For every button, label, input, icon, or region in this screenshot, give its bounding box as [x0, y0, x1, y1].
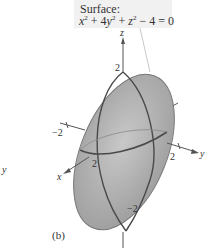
y-axis-label: y: [199, 148, 205, 159]
z-bottom-tick-label: −2: [127, 203, 138, 214]
ellipsoid-plot: z −2 y 2 x 2 2 −2: [0, 0, 209, 248]
z-axis-arrow-icon: [121, 37, 125, 44]
caption-leader-line: [140, 28, 150, 72]
z-top-tick-label: 2: [115, 62, 120, 73]
x-axis-label: x: [56, 171, 62, 182]
y-pos-tick-label: 2: [170, 151, 175, 162]
adjacent-figure-y-label: y: [2, 164, 6, 175]
z-axis-label: z: [119, 27, 124, 38]
x-pos-tick-label: 2: [92, 158, 97, 169]
subfigure-label: (b): [52, 229, 65, 241]
y-axis-negative: [60, 123, 85, 130]
y-axis-arrow-icon: [191, 149, 199, 154]
x-axis-arrow-icon: [63, 168, 71, 174]
y-neg-tick-label: −2: [52, 127, 63, 138]
